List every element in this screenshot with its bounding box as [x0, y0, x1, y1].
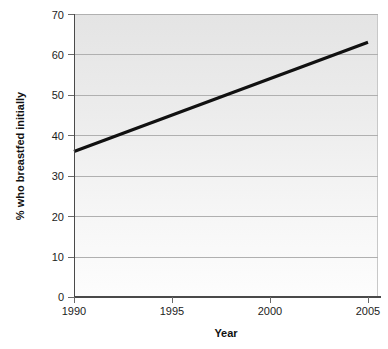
x-axis-title: Year: [214, 327, 238, 339]
y-tick-label-30: 30: [52, 170, 64, 182]
y-tick-label-10: 10: [52, 251, 64, 263]
x-tick-label-2005: 2005: [356, 305, 380, 317]
y-axis-title: % who breastfed initially: [14, 91, 26, 220]
x-axis-ticks: [75, 297, 369, 303]
y-tick-label-20: 20: [52, 211, 64, 223]
y-tick-labels: 70 60 50 40 30 20 10 0: [52, 9, 64, 304]
y-axis-ticks: [68, 15, 74, 298]
x-tick-label-1990: 1990: [62, 305, 86, 317]
y-tick-label-60: 60: [52, 49, 64, 61]
y-tick-label-40: 40: [52, 130, 64, 142]
chart-figure: 70 60 50 40 30 20 10 0 1990 1995 2000 20…: [0, 0, 388, 349]
y-tick-label-0: 0: [58, 291, 64, 303]
x-tick-label-1995: 1995: [160, 305, 184, 317]
y-tick-label-70: 70: [52, 9, 64, 21]
x-tick-label-2000: 2000: [258, 305, 282, 317]
line-chart: 70 60 50 40 30 20 10 0 1990 1995 2000 20…: [0, 0, 388, 349]
x-tick-labels: 1990 1995 2000 2005: [62, 305, 380, 317]
y-tick-label-50: 50: [52, 89, 64, 101]
